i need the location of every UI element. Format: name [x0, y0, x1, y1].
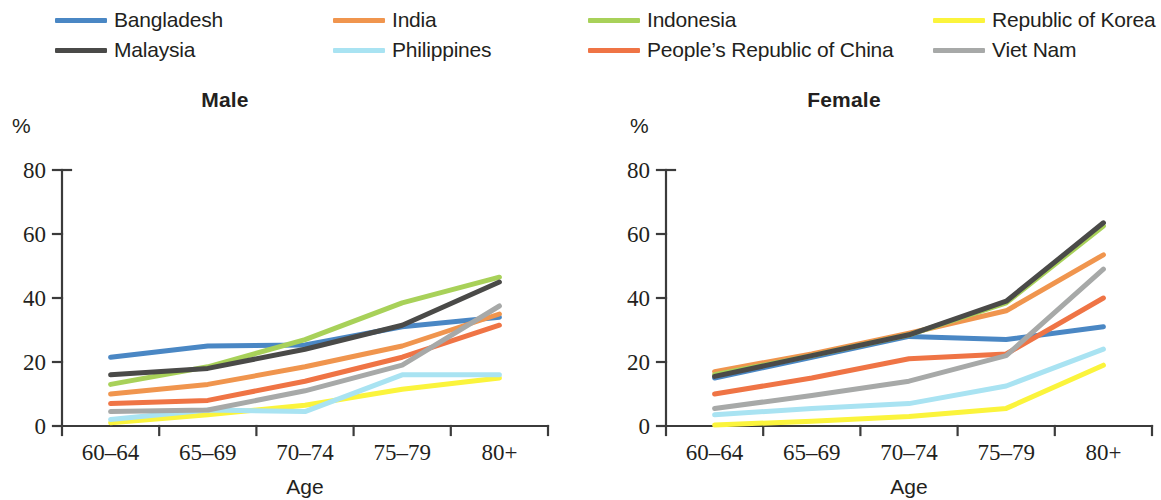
legend-label: Viet Nam — [992, 38, 1076, 62]
line-swatch-icon — [333, 48, 385, 53]
line-swatch-icon — [55, 18, 107, 23]
x-tick-label: 70–74 — [880, 440, 938, 465]
chart-panel-male: Male % 02040608060–6465–6970–7475–7980+A… — [0, 88, 560, 498]
x-tick-label: 70–74 — [276, 440, 334, 465]
x-tick-label: 60–64 — [686, 440, 744, 465]
x-tick-label: 80+ — [1085, 440, 1121, 465]
x-tick-label: 80+ — [481, 440, 517, 465]
y-tick-label: 20 — [23, 350, 46, 375]
series-line-republic-of-korea — [715, 365, 1104, 425]
y-tick-label: 60 — [23, 222, 46, 247]
y-tick-label: 0 — [639, 414, 651, 439]
legend-item-philippines[interactable]: Philippines — [333, 38, 588, 62]
y-tick-label: 60 — [627, 222, 650, 247]
line-chart-male: 02040608060–6465–6970–7475–7980+Age — [0, 88, 560, 498]
y-tick-label: 20 — [627, 350, 650, 375]
line-swatch-icon — [333, 18, 385, 23]
x-tick-label: 75–79 — [977, 440, 1034, 465]
x-tick-label: 75–79 — [373, 440, 431, 465]
x-tick-label: 60–64 — [82, 440, 140, 465]
x-tick-label: 65–69 — [783, 440, 841, 465]
legend-label: Bangladesh — [114, 8, 223, 32]
line-swatch-icon — [588, 18, 640, 23]
line-chart-female: 02040608060–6465–6970–7475–7980+Age — [604, 88, 1161, 498]
y-tick-label: 40 — [23, 286, 46, 311]
chart-legend: Bangladesh India Indonesia Republic of K… — [55, 5, 1155, 65]
series-line-malaysia — [111, 282, 500, 375]
line-swatch-icon — [55, 48, 107, 53]
legend-item-viet-nam[interactable]: Viet Nam — [933, 38, 1155, 62]
series-line-indonesia — [715, 226, 1104, 375]
x-tick-label: 65–69 — [179, 440, 237, 465]
legend-item-indonesia[interactable]: Indonesia — [588, 8, 933, 32]
legend-item-bangladesh[interactable]: Bangladesh — [55, 8, 333, 32]
legend-item-republic-of-korea[interactable]: Republic of Korea — [933, 8, 1155, 32]
y-tick-label: 80 — [627, 158, 650, 183]
y-tick-label: 40 — [627, 286, 650, 311]
y-tick-label: 0 — [35, 414, 47, 439]
y-tick-label: 80 — [23, 158, 46, 183]
legend-item-india[interactable]: India — [333, 8, 588, 32]
legend-label: Republic of Korea — [992, 8, 1156, 32]
figure-root: Bangladesh India Indonesia Republic of K… — [0, 0, 1161, 500]
legend-label: India — [392, 8, 437, 32]
series-line-malaysia — [715, 223, 1104, 377]
line-swatch-icon — [933, 18, 985, 23]
legend-label: Philippines — [392, 38, 491, 62]
x-axis-title: Age — [286, 475, 323, 498]
line-swatch-icon — [933, 48, 985, 53]
legend-label: Indonesia — [647, 8, 736, 32]
chart-panel-female: Female % 02040608060–6465–6970–7475–7980… — [604, 88, 1161, 498]
legend-label: People’s Republic of China — [647, 38, 894, 62]
line-swatch-icon — [588, 48, 640, 53]
x-axis-title: Age — [890, 475, 927, 498]
legend-item-malaysia[interactable]: Malaysia — [55, 38, 333, 62]
legend-item-peoples-republic-of-china[interactable]: People’s Republic of China — [588, 38, 933, 62]
legend-label: Malaysia — [114, 38, 195, 62]
